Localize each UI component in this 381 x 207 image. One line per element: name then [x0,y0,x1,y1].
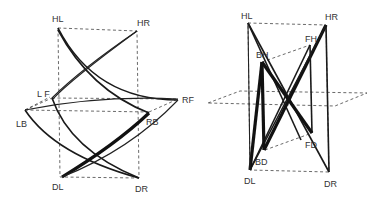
label-hr: HR [137,18,150,28]
label-fh: FH [305,34,317,44]
label-rb: RB [146,117,159,127]
left-curve-lb-rf [25,98,178,110]
label-hl-right: HL [241,11,253,21]
label-bh: BH [256,50,269,60]
label-rf: RF [182,95,194,105]
label-hr-right: HR [325,12,338,22]
left-curve-hl-rf [58,28,178,100]
label-dr: DR [135,184,148,194]
right-line-bh-bd [262,62,264,150]
left-plane-edge [25,98,52,110]
right-line-fh-fd [310,45,312,133]
right-line-hr-dr [326,25,329,172]
figure-canvas: HL HR L F LB RF RB DL DR HL HR BH FH BD … [0,0,381,207]
right-line-fh-dl [250,45,310,170]
right-diagram: HL HR BH FH BD FD DL DR [208,11,367,189]
label-lb: LB [16,119,27,129]
right-line-bh-fd [262,62,312,133]
right-line-dl-hl [248,23,250,170]
label-fd: FD [305,140,317,150]
label-lf: L F [37,89,50,99]
label-dl: DL [52,182,64,192]
label-dl-right: DL [244,176,256,186]
label-bd: BD [255,157,268,167]
label-dr-right: DR [324,179,337,189]
label-hl: HL [52,14,64,24]
left-curve-lf-dr [52,98,139,178]
right-line-bh-dl [250,62,262,170]
left-curve-hl-rb [58,30,149,113]
left-diagram: HL HR L F LB RF RB DL DR [16,14,194,194]
